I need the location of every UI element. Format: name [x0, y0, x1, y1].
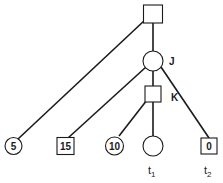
root-decision-node [144, 5, 163, 23]
edge-J-to-15 [68, 67, 146, 138]
decision-node-K [145, 86, 161, 102]
leaf-value-15: 15 [60, 141, 72, 152]
label-K: K [171, 92, 179, 103]
terminal-label-t1: t1 [148, 164, 156, 179]
edge-K-to-10 [119, 100, 147, 136]
leaf-value-0: 0 [206, 141, 212, 152]
game-tree-diagram: J K 5 15 10 0 t1 t2 [0, 0, 223, 183]
edge-root-to-5 [18, 20, 145, 139]
leaf-node-t1 [143, 136, 163, 156]
leaf-value-5: 5 [11, 141, 17, 152]
edge-J-to-0 [161, 67, 209, 138]
terminal-label-t2: t2 [204, 164, 212, 179]
chance-node-J [143, 51, 163, 71]
label-J: J [169, 56, 175, 67]
leaf-value-10: 10 [109, 141, 121, 152]
